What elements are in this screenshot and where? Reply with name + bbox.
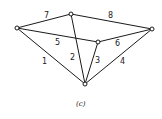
edges	[17, 14, 152, 84]
node-c	[150, 27, 154, 31]
edge-label-5: 5	[55, 38, 60, 47]
figure-caption: (c)	[76, 100, 86, 108]
graph-diagram: 1 2 3 4 5 6 7 8 (c)	[0, 0, 162, 119]
edge-2	[71, 14, 85, 84]
edge-label-8: 8	[108, 11, 113, 20]
edge-label-3: 3	[95, 56, 100, 65]
node-e	[83, 82, 87, 86]
node-b	[69, 12, 73, 16]
node-d	[96, 40, 100, 44]
edge-label-1: 1	[42, 57, 47, 66]
edge-label-2: 2	[70, 53, 75, 62]
edge-label-6: 6	[115, 39, 120, 48]
node-a	[15, 26, 19, 30]
edge-label-4: 4	[120, 57, 125, 66]
edge-label-7: 7	[44, 11, 49, 20]
